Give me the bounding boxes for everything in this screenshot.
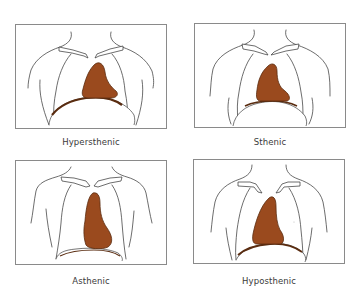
right-flank-outline [129,211,134,247]
left-flank-outline [46,209,52,247]
right-shoulder-outline [286,30,330,96]
left-clavicle [59,47,88,58]
right-clavicle [271,44,299,55]
right-shoulder-outline [111,32,154,88]
right-flank-outline [306,228,312,260]
left-shoulder-outline [28,32,71,88]
heart-shape [253,197,284,244]
heart-shape [256,64,289,101]
right-clavicle [94,177,122,187]
panel-hypersthenic [15,24,167,129]
hypersthenic-torso-illustration [16,25,166,128]
panel-sthenic [194,23,346,128]
right-flank-outline [136,80,143,125]
hyposthenic-torso-illustration [194,160,344,263]
right-flank-outline [309,98,313,124]
diaphragm-outline [236,243,306,262]
speck [293,221,294,222]
asthenic-torso-illustration [16,161,166,264]
heart-shape [82,63,117,98]
left-flank-outline [228,98,231,124]
label-asthenic: Asthenic [6,276,176,286]
left-shoulder-outline [31,167,71,223]
right-clavicle [95,46,123,58]
heart-shape [84,193,112,249]
panel-asthenic [15,160,167,265]
panel-hyposthenic [193,159,345,264]
sthenic-torso-illustration [195,24,345,127]
label-hyposthenic: Hyposthenic [184,276,354,286]
left-flank-outline [40,80,49,125]
left-clavicle [242,44,268,55]
left-shoulder-outline [211,165,252,232]
left-shoulder-outline [210,30,254,96]
right-rib-outline [112,185,126,259]
left-flank-outline [226,228,232,260]
right-shoulder-outline [112,167,152,223]
left-clavicle [238,182,262,193]
right-shoulder-outline [286,165,327,232]
label-hypersthenic: Hypersthenic [6,137,176,147]
label-sthenic: Sthenic [185,137,355,147]
left-rib-outline [56,185,71,259]
right-clavicle [276,182,300,193]
left-clavicle [61,177,90,187]
diaphragm-outline [49,97,135,125]
